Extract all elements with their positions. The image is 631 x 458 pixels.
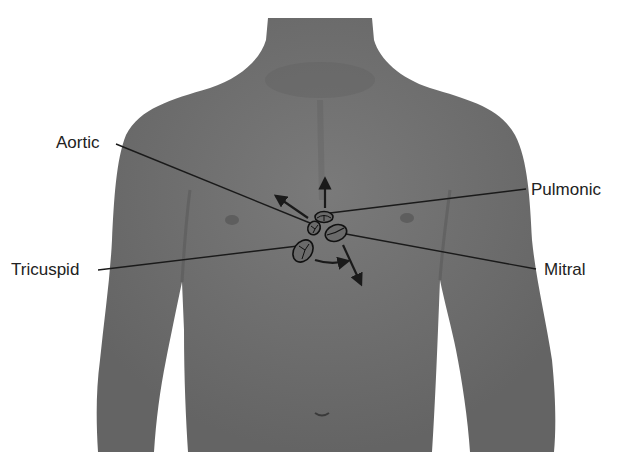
pulmonic-valve-icon: [315, 212, 333, 223]
pulmonic-label: Pulmonic: [531, 181, 601, 198]
aortic-label: Aortic: [56, 134, 99, 151]
tricuspid-label: Tricuspid: [11, 261, 79, 278]
left-nipple: [400, 213, 414, 223]
chest-diagram: Aortic Pulmonic Tricuspid Mitral: [0, 0, 631, 458]
neck-shadow: [265, 62, 375, 98]
right-nipple: [225, 215, 239, 225]
mitral-label: Mitral: [544, 261, 586, 278]
sternum-shadow: [320, 100, 322, 200]
torso-illustration: [0, 0, 631, 458]
